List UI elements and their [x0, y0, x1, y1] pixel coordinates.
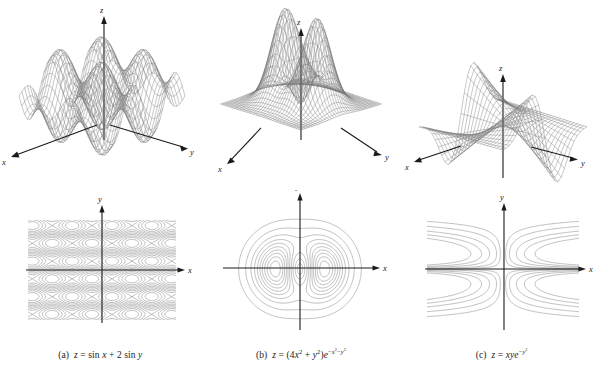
caption-b: (b) z = (4x2 + y2)e−x2−y2 — [201, 348, 402, 381]
contour-plot-b: y x — [201, 190, 402, 348]
y-axis-label-c: y — [580, 158, 585, 168]
y-axis-label-a: y — [189, 147, 194, 157]
surface-plot-b: z x y — [201, 0, 402, 190]
z-axis-label-a: z — [99, 5, 104, 15]
surface-plot-c: z x y — [401, 0, 602, 190]
caption-c-label: (c) — [476, 350, 487, 360]
x-axis-label-a: x — [1, 157, 6, 167]
x-axis-label-c-contour: x — [588, 264, 593, 274]
contour-plot-c: y x — [401, 190, 602, 348]
x-axis-c-contour — [425, 266, 586, 271]
x-axis-label-c: x — [404, 162, 409, 172]
surface-plot-a: z x y — [0, 0, 201, 190]
x-axis-a — [11, 125, 97, 157]
x-axis-label-a-contour: x — [187, 265, 192, 275]
y-axis-c-contour — [502, 203, 507, 330]
caption-a: (a) z = sin x + 2 sin y — [0, 348, 201, 381]
figure-three-surface-contour-pairs: z x y — [0, 0, 602, 381]
y-axis-label-a-contour: y — [97, 194, 102, 204]
caption-a-label: (a) — [58, 350, 69, 360]
caption-b-label: (b) — [256, 350, 267, 360]
panel-b: z x y y x — [201, 0, 402, 381]
y-axis-b — [341, 128, 382, 156]
x-axis-b — [227, 128, 261, 164]
z-axis-label-c: z — [498, 63, 503, 73]
x-axis-label-b-contour: x — [382, 263, 387, 273]
x-axis-c — [414, 146, 461, 163]
x-axis-b-contour — [223, 265, 380, 270]
contour-plot-a: y x — [0, 190, 201, 348]
surface-mesh-a — [19, 37, 185, 155]
y-axis-label-b-contour: y — [295, 190, 300, 191]
y-axis-label-b: y — [384, 152, 389, 162]
z-axis-label-b: z — [296, 17, 301, 27]
panel-a: z x y — [0, 0, 201, 381]
caption-c: (c) z = xye−y2 — [401, 348, 602, 381]
y-axis-label-c-contour: y — [499, 192, 504, 202]
x-axis-label-b: x — [217, 164, 222, 174]
panel-c: z x y y — [401, 0, 602, 381]
